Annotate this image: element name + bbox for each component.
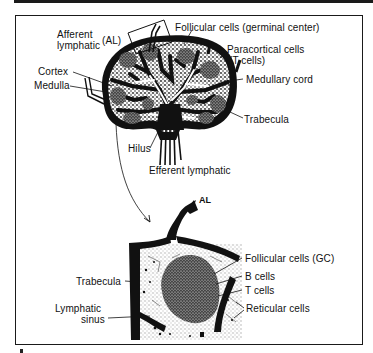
label-hilus: Hilus xyxy=(128,143,151,154)
panel-label-a xyxy=(20,349,23,353)
node-enlarged xyxy=(108,200,244,340)
label-lymphatic-sinus-line1: Lymphatic xyxy=(55,303,101,314)
label-afferent-lymphatic-line2: lymphatic xyxy=(57,40,100,51)
label-efferent-lymphatic: Efferent lymphatic xyxy=(149,165,231,176)
lymph-node-illustration xyxy=(0,0,373,353)
label-t-cells: T cells xyxy=(245,285,274,296)
label-lymphatic-sinus-line2: sinus xyxy=(81,314,105,325)
label-al-abbrev: (AL) xyxy=(102,35,121,46)
label-b-cells: B cells xyxy=(245,271,275,282)
label-reticular-cells: Reticular cells xyxy=(246,303,310,314)
label-cortex: Cortex xyxy=(38,66,68,77)
label-follicular-cells: Follicular cells (germinal center) xyxy=(175,22,320,33)
label-afferent-lymphatic-line1: Afferent xyxy=(57,29,93,40)
label-al: AL xyxy=(199,195,211,206)
label-medullary-cord: Medullary cord xyxy=(246,74,313,85)
label-medulla: Medulla xyxy=(34,80,70,91)
label-trabecula-top: Trabecula xyxy=(244,114,289,125)
label-paracortical-line2: (T cells) xyxy=(229,55,265,66)
label-paracortical-line1: Paracortical cells xyxy=(227,44,304,55)
label-follicular-cells-gc: Follicular cells (GC) xyxy=(245,253,334,264)
label-trabecula-bottom: Trabecula xyxy=(76,276,121,287)
